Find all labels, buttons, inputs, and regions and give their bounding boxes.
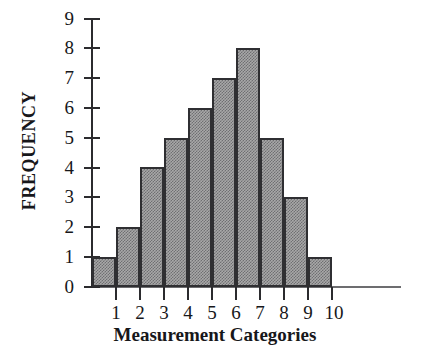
bar-4 <box>164 138 188 287</box>
y-tick-label-3: 3 <box>52 187 74 206</box>
y-axis-line <box>91 18 93 288</box>
y-tick-label-0: 0 <box>52 277 74 296</box>
x-tick-1 <box>115 287 117 300</box>
bar-5 <box>188 108 212 287</box>
x-tick-3 <box>163 287 165 300</box>
x-tick-5 <box>211 287 213 300</box>
x-tick-8 <box>283 287 285 300</box>
x-tick-10 <box>331 287 333 300</box>
y-tick-6 <box>84 107 100 109</box>
y-tick-label-4: 4 <box>52 158 74 177</box>
y-tick-label-7: 7 <box>52 68 74 87</box>
y-tick-9 <box>84 18 100 20</box>
y-tick-4 <box>84 167 100 169</box>
y-tick-7 <box>84 77 100 79</box>
histogram-figure: FREQUENCY 0 1 2 3 4 5 6 7 8 9 1 2 3 4 5 … <box>0 0 430 359</box>
x-tick-6 <box>235 287 237 300</box>
bar-9 <box>284 197 308 287</box>
x-tick-9 <box>307 287 309 300</box>
y-tick-2 <box>84 226 100 228</box>
y-tick-8 <box>84 47 100 49</box>
x-tick-label-10: 10 <box>319 303 349 322</box>
x-tick-4 <box>187 287 189 300</box>
x-tick-2 <box>139 287 141 300</box>
y-tick-5 <box>84 137 100 139</box>
bar-1 <box>92 257 116 287</box>
y-tick-label-5: 5 <box>52 128 74 147</box>
y-tick-3 <box>84 196 100 198</box>
y-tick-label-1: 1 <box>52 247 74 266</box>
bar-10 <box>308 257 332 287</box>
bar-7 <box>236 48 260 287</box>
x-tick-7 <box>259 287 261 300</box>
y-tick-label-9: 9 <box>52 9 74 28</box>
y-tick-label-8: 8 <box>52 38 74 57</box>
x-axis-title: Measurement Categories <box>0 324 430 346</box>
y-tick-label-2: 2 <box>52 217 74 236</box>
bar-3 <box>140 167 164 287</box>
bar-6 <box>212 78 236 287</box>
y-axis-title-text: FREQUENCY <box>20 90 41 209</box>
y-axis-title: FREQUENCY <box>14 0 46 300</box>
bar-8 <box>260 138 284 287</box>
bar-2 <box>116 227 140 287</box>
y-tick-label-6: 6 <box>52 98 74 117</box>
